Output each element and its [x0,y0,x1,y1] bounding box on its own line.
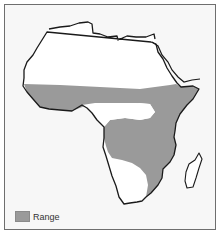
range-area-north [24,84,199,197]
africa-map [0,0,224,239]
madagascar [185,153,202,188]
range-legend-label: Range [33,212,60,222]
map-legend: Range [15,211,60,222]
range-swatch [15,211,30,222]
